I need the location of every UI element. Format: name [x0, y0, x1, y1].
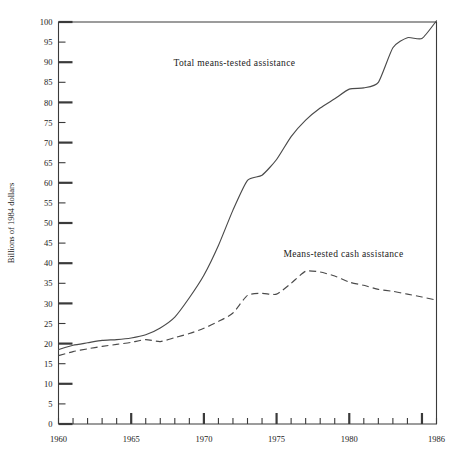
y-axis-tick-label-0: 0 — [48, 419, 52, 429]
y-axis-tick-label-5: 5 — [48, 399, 52, 409]
y-axis-ticks-group: 0510152025303540455055606570758085909510… — [40, 17, 73, 429]
y-axis-tick-label-85: 85 — [44, 77, 53, 87]
x-axis-tick-label-1980: 1980 — [341, 434, 358, 444]
series-line-1 — [59, 21, 437, 350]
y-axis-tick-label-95: 95 — [44, 37, 53, 47]
y-axis-tick-label-60: 60 — [44, 178, 53, 188]
y-axis-tick-label-100: 100 — [40, 17, 53, 27]
y-axis-tick-label-45: 45 — [44, 238, 53, 248]
x-axis-tick-label-1965: 1965 — [123, 434, 140, 444]
line-chart-svg: Billions of 1984 dollars 051015202530354… — [0, 0, 449, 463]
x-axis-tick-label-1986: 1986 — [428, 434, 445, 444]
y-axis-title-group: Billions of 1984 dollars — [6, 183, 16, 264]
series-line-2 — [59, 271, 437, 356]
y-axis-tick-label-25: 25 — [44, 319, 53, 329]
y-axis-tick-label-65: 65 — [44, 158, 53, 168]
y-axis-tick-label-15: 15 — [44, 359, 53, 369]
data-series-group — [59, 21, 437, 356]
y-axis-tick-label-70: 70 — [44, 138, 53, 148]
y-axis-tick-label-50: 50 — [44, 218, 53, 228]
series-annotation-1: Total means-tested assistance — [173, 58, 295, 68]
chart-container: Billions of 1984 dollars 051015202530354… — [0, 0, 449, 463]
x-axis-tick-label-1960: 1960 — [50, 434, 67, 444]
series-annotation-2: Means-tested cash assistance — [283, 249, 403, 259]
y-axis-tick-label-10: 10 — [44, 379, 53, 389]
plot-frame — [59, 22, 437, 424]
y-axis-tick-label-75: 75 — [44, 118, 53, 128]
y-axis-tick-label-35: 35 — [44, 278, 53, 288]
y-axis-tick-label-30: 30 — [44, 299, 53, 309]
y-axis-tick-label-55: 55 — [44, 198, 53, 208]
plot-frame-group — [59, 22, 437, 424]
y-axis-tick-label-20: 20 — [44, 339, 53, 349]
x-axis-ticks-group: 196019651970197519801986 — [50, 413, 445, 444]
y-axis-tick-label-80: 80 — [44, 98, 53, 108]
series-annotations-group: Total means-tested assistanceMeans-teste… — [173, 58, 403, 259]
x-axis-tick-label-1970: 1970 — [195, 434, 212, 444]
y-axis-tick-label-40: 40 — [44, 258, 53, 268]
x-axis-tick-label-1975: 1975 — [268, 434, 285, 444]
y-axis-tick-label-90: 90 — [44, 57, 53, 67]
y-axis-title: Billions of 1984 dollars — [6, 183, 16, 264]
